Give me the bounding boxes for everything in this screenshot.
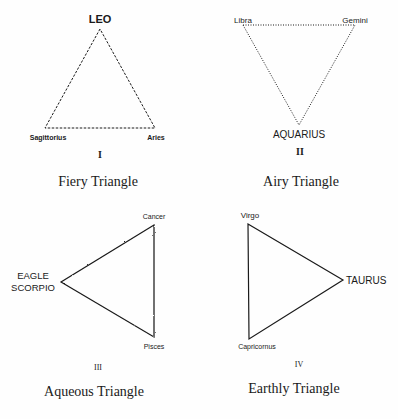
- earthly-triangle-shape: [248, 224, 343, 339]
- triangle-title: Earthly Triangle: [248, 381, 339, 396]
- triangle-title: Airy Triangle: [263, 174, 339, 189]
- vertex-label-gemini: Gemini: [342, 16, 368, 25]
- vertex-label-sagittorius: Sagittorius: [30, 134, 67, 142]
- vertex-label-leo: LEO: [89, 13, 112, 25]
- vertex-label-scorpio: SCORPIO: [11, 282, 55, 293]
- triangle-numeral: IV: [295, 360, 304, 369]
- vertex-label-cancer: Cancer: [143, 213, 166, 220]
- vertex-label-taurus: TAURUS: [346, 275, 387, 286]
- earthly-triangle: Virgo TAURUS Capricornus IV Earthly Tria…: [238, 211, 387, 396]
- vertex-label-libra: Libra: [234, 16, 252, 25]
- zodiac-triangles-diagram: LEO Sagittorius Aries I Fiery Triangle L…: [0, 0, 398, 419]
- vertex-label-eagle: EAGLE: [17, 270, 49, 281]
- triangle-title: Fiery Triangle: [58, 174, 138, 189]
- airy-triangle: Libra Gemini AQUARIUS II Airy Triangle: [234, 16, 368, 189]
- fiery-triangle-shape: [45, 29, 155, 128]
- aqueous-triangle-shape: [61, 225, 154, 337]
- aqueous-triangle: Cancer EAGLE SCORPIO Pisces III Aqueous …: [11, 213, 166, 399]
- triangle-numeral: III: [94, 363, 102, 372]
- triangle-numeral: I: [98, 149, 102, 160]
- vertex-label-capricornus: Capricornus: [238, 343, 276, 351]
- vertex-label-pisces: Pisces: [144, 343, 165, 350]
- vertex-label-aries: Aries: [147, 134, 165, 141]
- vertex-label-aquarius: AQUARIUS: [273, 129, 326, 140]
- airy-triangle-shape: [243, 25, 355, 125]
- vertex-label-virgo: Virgo: [241, 211, 260, 220]
- triangle-numeral: II: [296, 146, 304, 157]
- fiery-triangle: LEO Sagittorius Aries I Fiery Triangle: [30, 13, 165, 189]
- triangle-title: Aqueous Triangle: [44, 384, 144, 399]
